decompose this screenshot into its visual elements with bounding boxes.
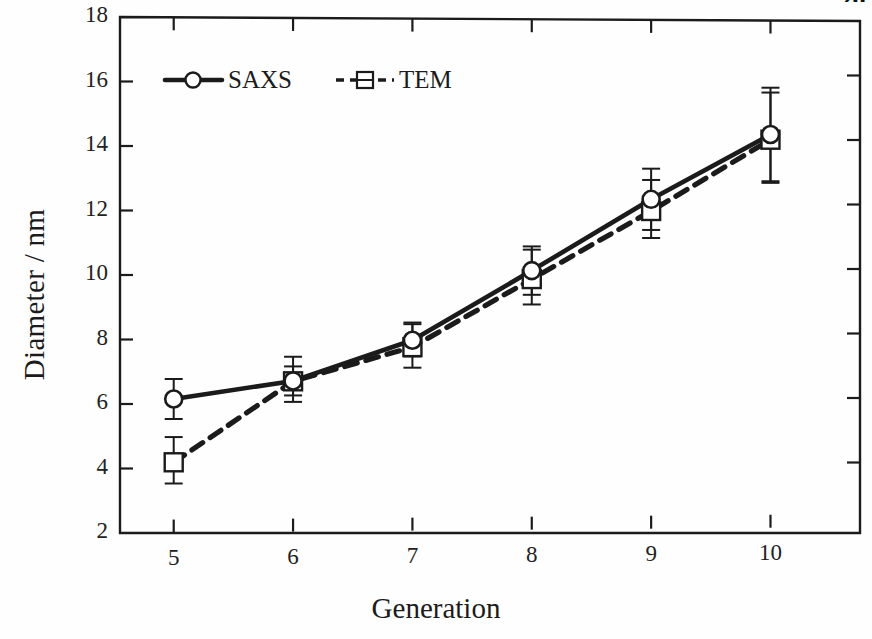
y-tick-label-4: 4: [62, 454, 108, 480]
y-tick-label-8: 8: [62, 325, 108, 351]
legend-label-tem: TEM: [399, 66, 452, 94]
y-tick-label-10: 10: [62, 260, 108, 286]
y-tick-label-14: 14: [62, 131, 108, 157]
data-point-saxs-10: [762, 126, 779, 143]
x-tick-label-5: 5: [144, 545, 204, 571]
x-tick-label-10: 10: [740, 540, 800, 566]
x-tick-label-9: 9: [621, 541, 681, 567]
legend-label-saxs: SAXS: [228, 66, 292, 94]
x-tick-label-7: 7: [382, 543, 442, 569]
y-tick-label-18: 18: [62, 2, 108, 28]
x-tick-label-8: 8: [502, 542, 562, 568]
x-tick-label-6: 6: [263, 544, 323, 570]
data-point-tem-5: [165, 453, 183, 471]
data-point-saxs-7: [404, 332, 421, 349]
data-point-saxs-8: [523, 262, 540, 279]
data-point-saxs-5: [165, 391, 182, 408]
plot-figure: 20 Diameter / nm Generation 246810121416…: [0, 0, 872, 639]
y-axis-title: Diameter / nm: [18, 165, 51, 425]
y-tick-label-2: 2: [62, 518, 108, 544]
data-point-saxs-9: [643, 191, 660, 208]
legend-marker-tem: [336, 72, 394, 88]
y-tick-label-12: 12: [62, 196, 108, 222]
data-point-saxs-6: [285, 372, 302, 389]
legend-marker-saxs: [165, 73, 222, 88]
chart-figure: 20 Diameter / nm Generation 246810121416…: [0, 0, 872, 639]
y-tick-label-16: 16: [62, 67, 108, 93]
axis-frame: [120, 17, 860, 533]
series-line-tem: [174, 140, 771, 463]
series-line-saxs: [174, 135, 771, 400]
y-tick-label-6: 6: [62, 389, 108, 415]
x-axis-title: Generation: [0, 592, 872, 625]
